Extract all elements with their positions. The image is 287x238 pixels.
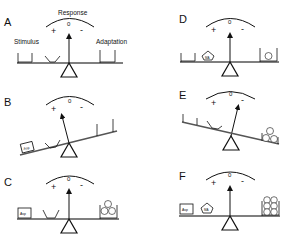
adaptation-label: Adaptation <box>96 38 127 46</box>
minus-sign: - <box>241 24 244 34</box>
methyl-ball <box>263 135 270 142</box>
panel-label: D <box>179 13 187 25</box>
panel-e: E + 0 - <box>179 89 279 150</box>
fulcrum <box>61 219 77 233</box>
zero-mark: 0 <box>228 172 232 178</box>
methyl-ball <box>267 128 274 135</box>
response-arrow <box>231 107 238 136</box>
panel-c: C + 0 - Asp <box>4 176 119 233</box>
methyl-ball <box>264 197 271 204</box>
fulcrum <box>61 143 77 157</box>
plus-sign: + <box>211 25 216 35</box>
panel-b: B + 0 - Asp <box>4 96 117 157</box>
methyl-ball <box>105 201 112 208</box>
methyl-ball <box>271 203 278 210</box>
stimulus-cup <box>181 53 195 62</box>
fulcrum <box>222 216 238 230</box>
methyl-ball <box>265 53 272 60</box>
methyl-ball <box>271 209 278 216</box>
minus-sign: - <box>241 95 244 105</box>
asp-label: Asp <box>182 208 188 212</box>
ma-label: MA <box>205 56 210 60</box>
panel-label: B <box>4 96 11 108</box>
zero-mark: 0 <box>68 98 72 104</box>
response-title: Response <box>58 9 88 17</box>
balance-diagram: A Response + 0 - Stimulus Adaptation B +… <box>0 0 287 238</box>
minus-sign: - <box>80 102 83 112</box>
receptor-site <box>43 210 59 218</box>
zero-mark: 0 <box>67 176 71 182</box>
panel-label: A <box>4 16 12 28</box>
plus-sign: + <box>211 178 216 188</box>
methyl-ball <box>264 203 271 210</box>
panel-label: C <box>4 176 12 188</box>
adaptation-cup <box>100 50 115 63</box>
plus-sign: + <box>51 182 56 192</box>
fulcrum <box>222 62 238 76</box>
methyl-ball <box>101 208 108 215</box>
plus-sign: + <box>51 104 56 114</box>
methyl-ball <box>264 209 271 216</box>
ma-label: MA <box>204 208 209 212</box>
plus-sign: + <box>211 98 216 108</box>
fulcrum <box>61 63 77 77</box>
panel-f: F + 0 - Asp MA <box>179 170 280 230</box>
fulcrum <box>223 136 239 150</box>
minus-sign: - <box>241 176 244 186</box>
plus-sign: + <box>51 26 56 36</box>
response-arrow <box>62 116 69 143</box>
receptor-site <box>45 56 60 62</box>
stimulus-label: Stimulus <box>14 38 40 45</box>
panel-label: E <box>179 89 186 101</box>
panel-a: A Response + 0 - Stimulus Adaptation <box>4 9 127 77</box>
minus-sign: - <box>80 180 83 190</box>
stimulus-cup <box>18 53 32 63</box>
zero-mark: 0 <box>67 21 71 27</box>
panel-d: D + 0 - MA <box>179 13 279 76</box>
asp-label: Asp <box>20 212 26 216</box>
minus-sign: - <box>80 25 83 35</box>
methyl-ball <box>271 136 278 143</box>
methyl-ball <box>109 208 116 215</box>
zero-mark: 0 <box>228 19 232 25</box>
methyl-ball <box>271 197 278 204</box>
panel-label: F <box>179 170 186 182</box>
